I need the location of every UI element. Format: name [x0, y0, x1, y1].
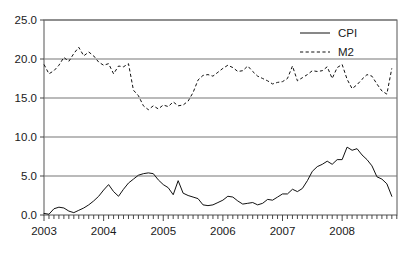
x-axis-tick-label: 2004 — [91, 225, 117, 237]
line-chart: 0.05.010.015.020.025.0 20032004200520062… — [0, 0, 416, 255]
y-axis-labels: 0.05.010.015.020.025.0 — [15, 14, 37, 221]
x-axis-tick-label: 2005 — [150, 225, 176, 237]
legend-label-cpi: CPI — [338, 27, 357, 39]
x-axis-tick-label: 2007 — [270, 225, 296, 237]
legend-label-m2: M2 — [338, 46, 354, 58]
y-axis-tick-label: 25.0 — [15, 14, 37, 26]
x-axis-tick-label: 2006 — [210, 225, 236, 237]
x-axis-labels: 200320042005200620072008 — [31, 225, 355, 237]
x-axis-tick-label: 2003 — [31, 225, 57, 237]
chart-container: 0.05.010.015.020.025.0 20032004200520062… — [0, 0, 416, 255]
y-axis-tick-label: 5.0 — [21, 170, 37, 182]
x-axis-minor-ticks — [44, 215, 397, 221]
y-axis-tick-label: 10.0 — [15, 131, 37, 143]
y-axis-tick-label: 0.0 — [21, 209, 37, 221]
y-axis-tick-label: 20.0 — [15, 53, 37, 65]
y-axis-ticks — [40, 20, 44, 215]
y-axis-tick-label: 15.0 — [15, 92, 37, 104]
x-axis-tick-label: 2008 — [329, 225, 355, 237]
